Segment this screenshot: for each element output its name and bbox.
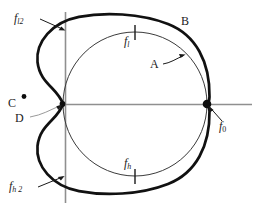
label-c: C — [8, 97, 16, 109]
label-fh-sub: h — [127, 162, 131, 171]
label-fh: fh — [124, 157, 131, 171]
leader-fl2-arrowhead — [59, 26, 66, 30]
label-b: B — [181, 15, 189, 27]
figure-canvas — [0, 0, 257, 209]
marker-f0-dot — [203, 100, 212, 109]
label-a: A — [150, 58, 159, 70]
label-f0: f0 — [219, 120, 226, 134]
label-fl2-sub: l2 — [17, 17, 23, 26]
label-fh2-sub: h 2 — [12, 185, 22, 194]
label-d: D — [15, 112, 24, 124]
label-fh2: fh 2 — [9, 180, 22, 194]
label-fl: fl — [124, 35, 130, 49]
label-f0-sub: 0 — [222, 125, 226, 134]
label-fl-sub: l — [127, 40, 129, 49]
marker-c-dot — [22, 94, 27, 99]
label-fl2: fl2 — [14, 12, 24, 26]
polar-response-figure: fl2 fh 2 C D f0 A B fl fh — [0, 0, 257, 209]
